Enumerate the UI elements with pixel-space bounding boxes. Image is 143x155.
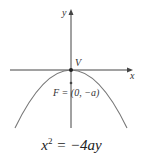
y-axis-arrow-icon: [69, 9, 74, 15]
vertex-point: [69, 68, 73, 72]
vertex-label: V: [75, 57, 83, 68]
focus-label: F = (0, −a): [52, 87, 100, 99]
y-axis-label: y: [61, 7, 67, 18]
equation-rest: = −4ay: [52, 137, 101, 153]
focus-point: [70, 82, 73, 85]
equation-base: x: [41, 137, 48, 153]
parabola-equation: x2 = −4ay: [0, 136, 143, 154]
parabola-diagram: y x V F = (0, −a): [0, 0, 143, 155]
x-axis-label: x: [129, 70, 135, 81]
